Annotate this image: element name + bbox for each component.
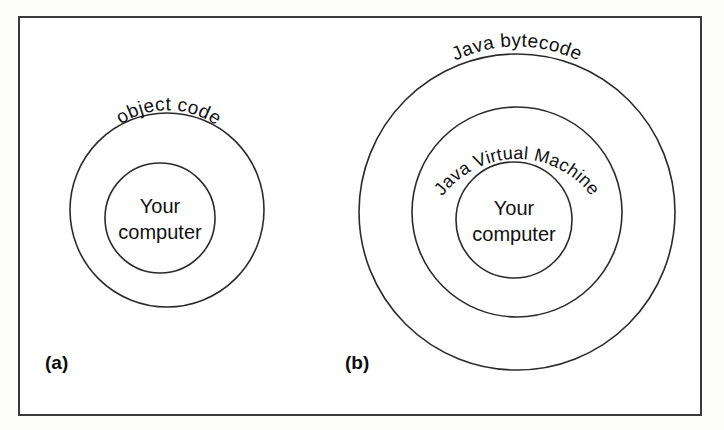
figure-container: object code Your computer (a) Java bytec… (0, 0, 724, 430)
panel-b-caption: (b) (345, 352, 369, 373)
diagram-canvas: object code Your computer (a) Java bytec… (0, 0, 724, 430)
panel-a-center-label-line2: computer (118, 221, 202, 243)
panel-a-center-label-line1: Your (140, 195, 181, 217)
panel-b-center-label-line2: computer (472, 223, 556, 245)
panel-b-center-label-line1: Your (494, 197, 535, 219)
panel-a-caption: (a) (45, 352, 68, 373)
